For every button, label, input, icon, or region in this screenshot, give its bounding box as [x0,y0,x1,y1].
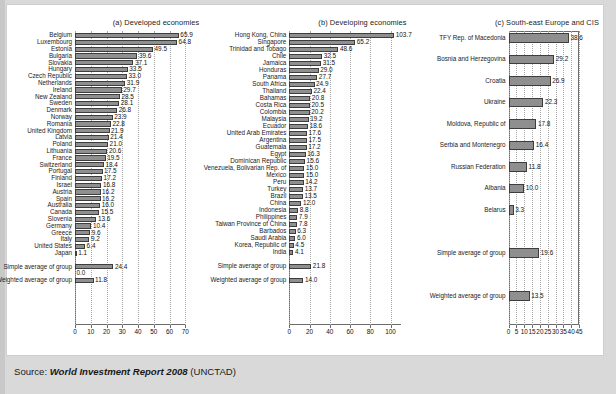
bar [289,61,321,66]
bar [509,291,530,301]
bar-row [509,227,579,237]
bar [75,115,113,120]
bar [289,152,305,157]
figure-card: (a) Developed economies Belgium65.9Luxem… [6,4,604,356]
bar-row: Slovenia13.6 [75,217,185,222]
bar-row: Argentina17.5 [289,138,400,143]
bar [289,110,309,115]
bar-row: Hong Kong, China103.7 [289,33,400,38]
x-tick-label: 45 [575,328,582,335]
bar-value-label: 11.8 [94,277,107,283]
bar [289,264,311,269]
panel-a-x-axis: 010203040506070 [75,325,185,339]
bar [289,82,314,87]
bar [75,183,101,188]
bar [509,76,551,86]
bar [289,215,297,220]
bar-row [75,257,185,262]
bar-row: Norway23.9 [75,115,185,120]
bar-value-label: 103.7 [394,32,412,38]
bar-value-label: 0.0 [75,270,85,276]
x-tick-label: 20 [306,328,313,335]
bar [75,135,109,140]
source-label: Source: [14,366,50,377]
bar-row: Barbados6.3 [289,229,400,234]
bar-row: Belarus3.3 [509,205,579,215]
bar-row: Ireland29.7 [75,87,185,92]
bar-value-label: 22.3 [543,99,557,105]
bar [75,162,104,167]
bar-category-label: TFY Rep. of Macedonia [439,35,508,41]
bar [75,121,111,126]
bar [289,131,307,136]
bar-value-label: 64.8 [177,39,191,45]
bar-row: Weighted average of group13.5 [509,291,579,301]
bar-row: Bosnia and Herzegovina29.2 [509,55,579,65]
bar-row: Latvia21.4 [75,135,185,140]
bar [75,47,153,52]
bar-row: Thailand22.4 [289,89,400,94]
bar [289,166,304,171]
bar [289,54,322,59]
bar-category-label: Weighted average of group [210,277,289,283]
bar [75,33,179,38]
bar-category-label: Simple average of group [437,250,509,256]
bar-value-label: 65.2 [355,39,369,45]
bar-row: Bulgaria39.6 [75,53,185,58]
bar-value-label: 13.5 [530,293,544,299]
bar-category-label: India [273,249,290,255]
bar-row: Switzerland18.4 [75,162,185,167]
bar-row: United Kingdom21.9 [75,128,185,133]
bar-row: Bahamas20.8 [289,96,400,101]
panel-c-bars: TFY Rep. of Macedonia38.6Bosnia and Herz… [509,31,579,325]
bar-row: Luxembourg64.8 [75,40,185,45]
bar-row: Weighted average of group11.8 [75,278,185,283]
bar-value-label: 4.1 [293,249,303,255]
bar [75,67,128,72]
bar-category-label: Serbia and Montenegro [440,142,509,148]
bar [509,184,525,194]
bar [75,155,106,160]
bar [75,169,103,174]
bar-row: Lithuania20.6 [75,149,185,154]
bar-value-label: 48.6 [338,46,352,52]
bar-row: Korea, Republic of4.5 [289,243,400,248]
bar [289,117,308,122]
bar-row: Canada15.5 [75,210,185,215]
bar [289,75,317,80]
bar-category-label: Ukraine [484,99,509,105]
bar-row [289,257,400,262]
panel-developed-economies: (a) Developed economies Belgium65.9Luxem… [7,5,211,355]
bar [75,81,125,86]
bar [75,74,127,79]
bar [75,223,91,228]
bar-value-label: 19.6 [539,250,553,256]
bar [289,222,297,227]
bar-row: Colombia20.2 [289,110,400,115]
x-tick-label: 40 [134,328,141,335]
bar [509,248,540,258]
source-suffix: (UNCTAD) [188,366,236,377]
bar-category-label: Moldova, Republic of [447,121,509,127]
bar [75,60,133,65]
bar [75,203,100,208]
source-title: World Investment Report 2008 [50,366,188,377]
bar [75,196,101,201]
x-tick-label: 0 [73,328,77,335]
bar-category-label: Albania [485,185,509,191]
bar-row: Simple average of group24.4 [75,264,185,269]
bar [289,103,310,108]
bar [509,33,569,43]
x-tick-label: 35 [560,328,567,335]
bar [289,187,303,192]
figure-page: (a) Developed economies Belgium65.9Luxem… [0,0,616,394]
page-left-edge [0,0,5,394]
x-tick-label: 60 [166,328,173,335]
bar [509,55,555,65]
bar-category-label: Belarus [484,207,508,213]
panel-b-x-axis: 020406080100 [289,325,400,339]
x-tick-label: 20 [536,328,543,335]
bar [75,217,96,222]
bar [509,119,537,129]
bar-row: Belgium65.9 [75,33,185,38]
